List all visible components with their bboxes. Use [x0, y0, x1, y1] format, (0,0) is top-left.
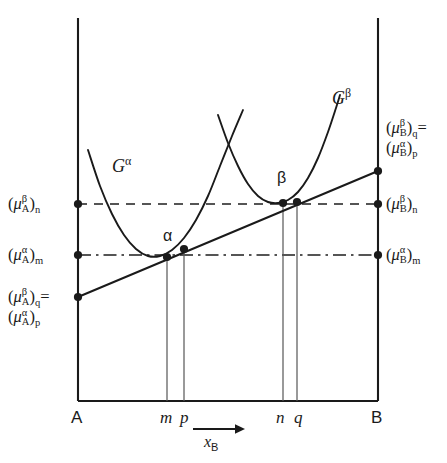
plot-canvas — [0, 0, 447, 463]
tick-label-m: m — [160, 409, 172, 427]
curve-label-G-beta: Gβ — [332, 87, 351, 108]
marker-beta-tangency-q — [293, 198, 301, 206]
figure-container: Gα Gβ α β (μβA)n (μαA)m (μβA)q= (μαA)p (… — [0, 0, 447, 463]
curve-g- — [218, 95, 340, 203]
point-label-beta: β — [277, 170, 286, 187]
marker-right-axis-m-level — [374, 251, 382, 259]
marker-beta-tangency-n — [279, 199, 287, 207]
label-mu-B-beta-n: (μβB)n — [386, 194, 418, 215]
marker-left-axis-m-level — [74, 251, 82, 259]
tick-label-p: p — [180, 409, 189, 427]
x-axis-title: xB — [204, 434, 218, 454]
marker-alpha-tangency-m — [163, 253, 171, 261]
marker-tangent-right-endpoint — [374, 167, 382, 175]
point-label-alpha: α — [163, 228, 172, 245]
marker-right-axis-n-level — [374, 200, 382, 208]
curve-label-G-alpha: Gα — [112, 155, 131, 176]
tick-label-q: q — [294, 409, 303, 427]
label-mu-B-beta-q-equals-alpha-p: (μβB)q= (μαB)p — [386, 118, 427, 160]
label-mu-A-beta-n: (μβA)n — [8, 194, 40, 215]
marker-alpha-tangency-p — [180, 245, 188, 253]
axis-label-A: A — [71, 409, 82, 427]
x-axis-arrow-icon — [193, 424, 245, 434]
axis-label-B: B — [371, 409, 382, 427]
label-mu-A-beta-q-equals-alpha-p: (μβA)q= (μαA)p — [8, 287, 49, 329]
marker-left-axis-n-level — [74, 200, 82, 208]
tick-label-n: n — [276, 409, 285, 427]
marker-tangent-left-endpoint — [74, 293, 82, 301]
label-mu-A-alpha-m: (μαA)m — [8, 245, 43, 266]
label-mu-B-alpha-m: (μαB)m — [386, 245, 420, 266]
